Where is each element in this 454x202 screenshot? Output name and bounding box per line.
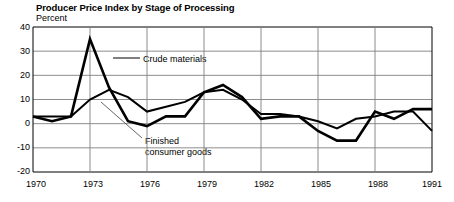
series-line-finished-consumer-goods xyxy=(33,90,432,131)
chart-figure: Producer Price Index by Stage of Process… xyxy=(0,0,454,202)
plot-canvas xyxy=(0,0,454,202)
series-line-crude-materials xyxy=(33,39,432,141)
